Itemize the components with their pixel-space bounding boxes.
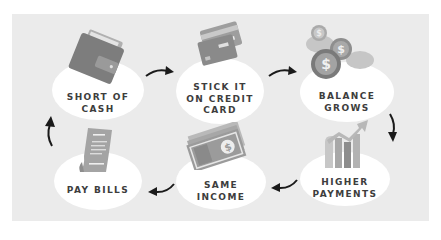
arrow-higher-payments-to-same-income [268, 178, 300, 194]
svg-text:$: $ [337, 43, 345, 56]
step-label: PAY BILLS [54, 185, 142, 197]
step-label: SAME INCOME [176, 180, 266, 203]
step-label: STICK IT ON CREDIT CARD [176, 82, 264, 117]
step-label: SHORT OF CASH [52, 92, 144, 115]
arrow-balance-grows-to-higher-payments [384, 112, 400, 144]
credit-cards-icon [194, 20, 248, 70]
arrow-short-of-cash-to-credit-card [144, 64, 176, 80]
rising-bar-chart-icon [323, 118, 371, 168]
step-label: BALANCE GROWS [300, 91, 394, 114]
cash-bills-icon: $ [182, 122, 252, 170]
svg-text:$: $ [321, 56, 331, 72]
step-label: HIGHER PAYMENTS [300, 177, 390, 200]
arrow-pay-bills-to-short-of-cash [42, 114, 58, 148]
coins-icon: $ $ $ [302, 22, 378, 84]
arrow-credit-card-to-balance-grows [267, 64, 299, 80]
svg-text:$: $ [316, 29, 322, 38]
receipt-icon [76, 126, 116, 178]
wallet-icon [68, 28, 128, 86]
arrow-same-income-to-pay-bills [145, 182, 177, 198]
